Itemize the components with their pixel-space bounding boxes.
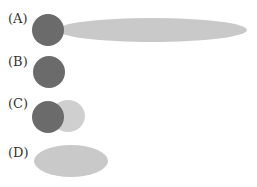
option-d-light-ellipse (34, 145, 108, 177)
option-a-shapes (32, 14, 247, 46)
option-d-shapes (34, 145, 108, 177)
option-a-light-ellipse (57, 18, 247, 42)
option-b-shapes (33, 56, 65, 88)
diagram-figure (0, 0, 257, 187)
option-c-dark-circle (32, 101, 64, 133)
option-b-dark-circle (33, 56, 65, 88)
option-a-dark-circle (32, 14, 64, 46)
option-c-shapes (32, 100, 85, 133)
